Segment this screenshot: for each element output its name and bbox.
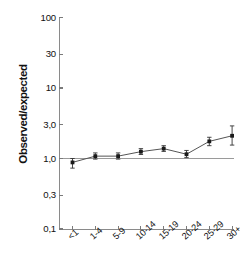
data-point-marker — [116, 154, 120, 158]
chart-figure: Observed/expected 10030103,01,00,30,1 <1… — [0, 0, 243, 272]
x-axis-tick — [118, 226, 119, 230]
x-axis-tick — [163, 226, 164, 230]
y-axis-tick — [59, 195, 63, 196]
plot-area — [0, 0, 243, 272]
y-axis-tick — [59, 228, 63, 229]
data-point-group — [184, 150, 188, 157]
data-point-marker — [185, 152, 189, 156]
data-point-marker — [162, 147, 166, 151]
data-point-group — [230, 126, 234, 145]
y-axis-tick — [59, 17, 63, 18]
y-axis-tick — [59, 87, 63, 88]
y-axis-tick — [59, 124, 63, 125]
data-point-group — [70, 159, 74, 169]
x-axis-tick — [209, 226, 210, 230]
x-axis-tick — [72, 226, 73, 230]
data-point-group — [162, 146, 166, 152]
data-point-marker — [230, 134, 234, 138]
data-point-group — [207, 137, 211, 145]
x-axis-tick — [232, 226, 233, 230]
data-point-marker — [93, 154, 97, 158]
x-axis-tick — [95, 226, 96, 230]
y-axis-tick — [59, 54, 63, 55]
data-point-marker — [207, 139, 211, 143]
data-point-marker — [139, 150, 143, 154]
y-axis-tick — [59, 158, 63, 159]
data-point-group — [139, 149, 143, 155]
x-axis-tick — [140, 226, 141, 230]
x-axis-tick — [186, 226, 187, 230]
data-point-marker — [71, 161, 75, 165]
